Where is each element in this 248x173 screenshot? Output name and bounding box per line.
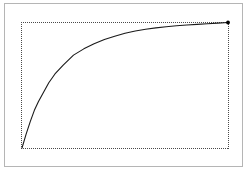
endpoint-marker: [226, 21, 230, 25]
saturation-curve: [22, 23, 228, 149]
figure-root: [0, 0, 248, 173]
curve-layer: [0, 0, 248, 173]
